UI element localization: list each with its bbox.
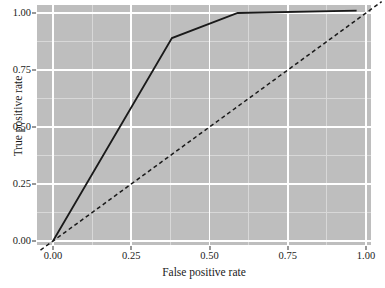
y-axis-tick-mark <box>32 13 36 14</box>
x-axis-tick-mark <box>287 246 288 250</box>
y-axis-tick-mark <box>32 241 36 242</box>
x-axis-tick-label: 1.00 <box>357 251 375 262</box>
x-axis-tick-label: 0.00 <box>44 251 62 262</box>
x-axis-tick-mark <box>53 246 54 250</box>
roc-curve-chart: 0.000.250.500.751.00 0.000.250.500.751.0… <box>0 0 385 288</box>
x-axis-tick-label: 0.25 <box>122 251 140 262</box>
x-axis-tick-label: 0.75 <box>279 251 297 262</box>
grid-lines <box>37 5 371 245</box>
y-axis-tick-label: 0.00 <box>13 236 31 247</box>
y-axis-tick-mark <box>32 127 36 128</box>
y-axis-tick-mark <box>32 70 36 71</box>
plot-panel-clip <box>37 5 371 245</box>
x-axis-tick-mark <box>366 246 367 250</box>
y-axis-tick-mark <box>32 184 36 185</box>
x-axis-tick-label: 0.50 <box>200 251 218 262</box>
x-axis-tick-mark <box>209 246 210 250</box>
plot-panel <box>37 5 371 245</box>
x-axis-title: False positive rate <box>37 266 371 278</box>
x-axis-tick-mark <box>131 246 132 250</box>
y-axis-title: True positive rate <box>12 46 24 186</box>
y-axis-tick-label: 1.00 <box>13 8 31 19</box>
